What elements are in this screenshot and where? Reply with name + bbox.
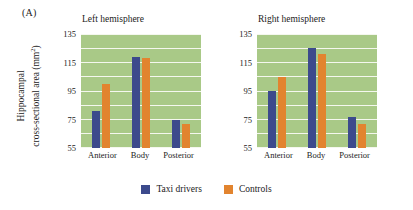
legend-swatch-icon: [224, 185, 233, 194]
y-axis-ticks-left: 135 115 95 75 55: [56, 34, 78, 148]
x-tick-label: Body: [307, 150, 325, 160]
figure-panel-a: (A) Hippocampal cross-sectional area (mm…: [0, 0, 413, 210]
bar-controls: [142, 58, 150, 148]
bar-taxi: [132, 57, 140, 148]
bar-taxi: [348, 117, 356, 148]
y-tick-label: 135: [63, 29, 76, 39]
x-axis-labels-left: Anterior Body Posterior: [81, 150, 201, 160]
legend-item-controls: Controls: [224, 184, 272, 194]
y-axis-title-superscript: 2: [29, 48, 36, 51]
axis-area-left: 135 115 95 75 55: [56, 34, 204, 154]
y-axis-title: Hippocampal cross-sectional area (mm2): [18, 40, 40, 152]
x-tick-label: Anterior: [264, 150, 293, 160]
legend-item-taxi-drivers: Taxi drivers: [141, 184, 202, 194]
y-axis-ticks-right: 135 115 95 75 55: [232, 34, 254, 148]
panel-label: (A): [22, 7, 36, 18]
x-tick-label: Posterior: [163, 150, 194, 160]
axis-area-right: 135 115 95 75 55: [232, 34, 380, 154]
bar-group-posterior: [172, 34, 190, 148]
y-tick-label: 55: [244, 143, 253, 153]
x-axis-labels-right: Anterior Body Posterior: [257, 150, 377, 160]
chart-title-left: Left hemisphere: [82, 14, 144, 24]
y-tick-label: 55: [68, 143, 77, 153]
bar-group-posterior: [348, 34, 366, 148]
bar-taxi: [92, 111, 100, 148]
bar-group-body: [308, 34, 326, 148]
legend-label: Taxi drivers: [156, 184, 202, 194]
bar-groups-left: [81, 34, 201, 148]
y-axis-title-line1: Hippocampal: [16, 45, 27, 146]
x-tick-label: Posterior: [339, 150, 370, 160]
bar-group-anterior: [268, 34, 286, 148]
x-tick-label: Body: [131, 150, 149, 160]
y-tick-label: 95: [68, 86, 77, 96]
bar-controls: [102, 84, 110, 148]
legend-swatch-icon: [141, 185, 150, 194]
bar-controls: [358, 124, 366, 148]
chart-legend: Taxi drivers Controls: [0, 184, 413, 194]
bar-controls: [318, 54, 326, 148]
y-axis-title-line2-close: ): [31, 45, 41, 48]
bar-group-anterior: [92, 34, 110, 148]
y-tick-label: 115: [64, 58, 76, 68]
y-tick-label: 75: [244, 115, 253, 125]
plot-area-right: [257, 34, 377, 148]
bar-controls: [278, 77, 286, 148]
y-tick-label: 115: [240, 58, 252, 68]
bar-taxi: [308, 48, 316, 148]
legend-label: Controls: [239, 184, 272, 194]
bar-groups-right: [257, 34, 377, 148]
chart-title-right: Right hemisphere: [258, 14, 325, 24]
bar-taxi: [172, 120, 180, 149]
y-axis-title-line2: cross-sectional area (mm: [31, 52, 41, 147]
plot-area-left: [81, 34, 201, 148]
bar-group-body: [132, 34, 150, 148]
bar-taxi: [268, 91, 276, 148]
bar-controls: [182, 124, 190, 148]
y-tick-label: 135: [239, 29, 252, 39]
x-tick-label: Anterior: [88, 150, 117, 160]
y-tick-label: 95: [244, 86, 253, 96]
y-tick-label: 75: [68, 115, 77, 125]
